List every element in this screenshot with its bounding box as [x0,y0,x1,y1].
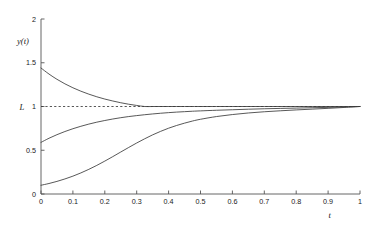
x-axis-ticks: 00.10.20.30.40.50.60.70.80.91 [39,191,362,207]
x-tick-label: 0.9 [323,197,333,206]
x-tick-label: 0.5 [196,197,206,206]
x-tick-label: 0.6 [227,197,237,206]
line-chart: 00.10.20.30.40.50.60.70.80.91 00.511.52 … [0,0,375,231]
limit-label: L [19,102,25,112]
x-tick-label: 0.1 [68,197,78,206]
y-tick-label: 0 [32,190,36,199]
y-tick-label: 1 [32,102,36,111]
x-tick-label: 0.4 [164,197,174,206]
x-tick-label: 0.8 [291,197,301,206]
chart-container: 00.10.20.30.40.50.60.70.80.91 00.511.52 … [0,0,375,231]
data-curve [41,107,360,186]
data-series-group [41,68,360,185]
axes: 00.10.20.30.40.50.60.70.80.91 00.511.52 [26,15,362,206]
axis-labels: y(t) t L [16,36,331,221]
y-tick-label: 0.5 [26,146,36,155]
x-tick-label: 0 [39,197,43,206]
x-tick-label: 1 [358,197,362,206]
data-curve [41,68,360,107]
x-tick-label: 0.7 [259,197,269,206]
x-axis-label: t [328,210,331,220]
y-tick-label: 2 [32,15,36,24]
y-tick-label: 1.5 [26,58,36,67]
x-tick-label: 0.2 [100,197,110,206]
x-tick-label: 0.3 [132,197,142,206]
data-curve [41,107,360,143]
y-axis-label: y(t) [16,36,29,46]
